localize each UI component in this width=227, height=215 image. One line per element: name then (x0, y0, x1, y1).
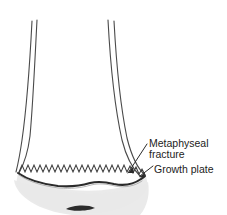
bone-illustration (0, 0, 227, 215)
figure-root: Metaphyseal fracture Growth plate (0, 0, 227, 215)
label-metaphyseal-fracture-line2: fracture (149, 149, 185, 160)
label-growth-plate: Growth plate (154, 164, 214, 175)
metaphysis-body-fill (17, 20, 146, 183)
